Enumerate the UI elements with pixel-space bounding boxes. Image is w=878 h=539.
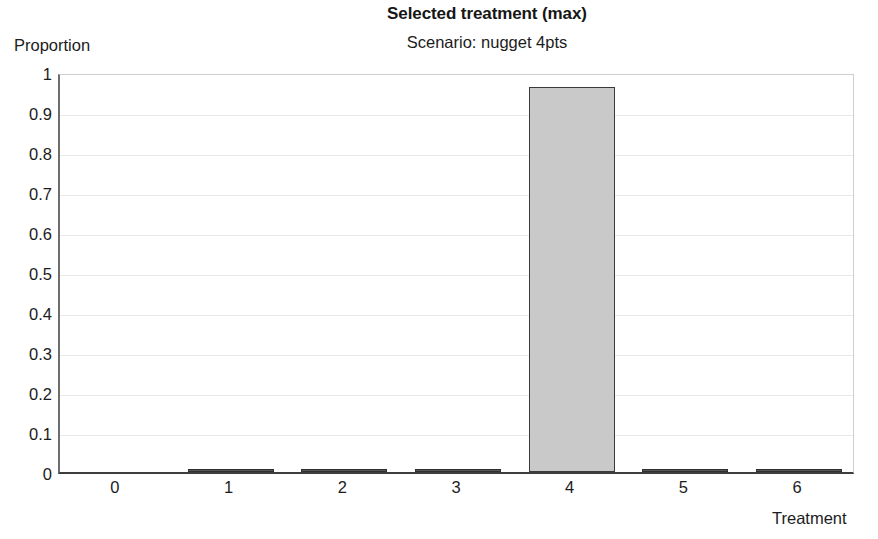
y-tick-label: 0.6 — [0, 225, 52, 244]
x-tick-label: 4 — [565, 478, 574, 497]
x-tick-label: 2 — [338, 478, 347, 497]
y-axis-ticks: 00.10.20.30.40.50.60.70.80.91 — [0, 74, 52, 474]
x-axis-ticks: 0123456 — [58, 478, 854, 506]
gridline — [60, 155, 853, 156]
y-tick-label: 0.9 — [0, 105, 52, 124]
y-tick-label: 0.7 — [0, 185, 52, 204]
x-tick-label: 5 — [679, 478, 688, 497]
y-tick-label: 0.5 — [0, 265, 52, 284]
y-tick-label: 0.4 — [0, 305, 52, 324]
x-tick-label: 0 — [110, 478, 119, 497]
y-tick-label: 0 — [0, 465, 52, 484]
y-tick-label: 0.1 — [0, 425, 52, 444]
x-tick-label: 3 — [451, 478, 460, 497]
bar-5 — [642, 469, 728, 472]
bar-4 — [529, 87, 615, 472]
gridline — [60, 275, 853, 276]
gridline — [60, 435, 853, 436]
gridline — [60, 195, 853, 196]
gridline — [60, 115, 853, 116]
y-tick-label: 1 — [0, 65, 52, 84]
plot-area — [58, 74, 854, 474]
y-tick-label: 0.8 — [0, 145, 52, 164]
y-axis-label: Proportion — [14, 36, 90, 55]
gridline — [60, 315, 853, 316]
gridline — [60, 395, 853, 396]
gridline — [60, 235, 853, 236]
y-tick-label: 0.3 — [0, 345, 52, 364]
bar-3 — [415, 469, 501, 472]
bar-6 — [756, 469, 842, 472]
x-axis-label: Treatment — [772, 509, 847, 528]
bar-2 — [301, 469, 387, 472]
x-tick-label: 6 — [793, 478, 802, 497]
chart-figure: Selected treatment (max) Scenario: nugge… — [0, 0, 878, 539]
chart-subtitle: Scenario: nugget 4pts — [0, 33, 878, 52]
gridline — [60, 355, 853, 356]
y-tick-label: 0.2 — [0, 385, 52, 404]
x-tick-label: 1 — [224, 478, 233, 497]
page-title: Selected treatment (max) — [0, 4, 878, 24]
bar-1 — [188, 469, 274, 472]
